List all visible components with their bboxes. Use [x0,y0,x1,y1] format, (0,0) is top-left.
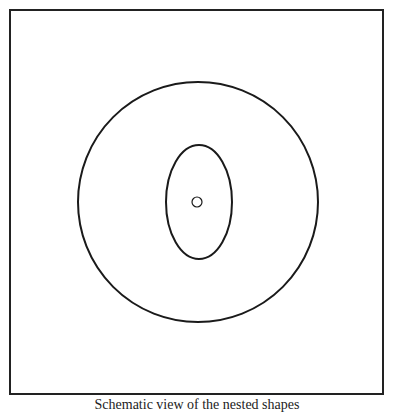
inner-ellipse [166,145,232,259]
frame-border [10,10,383,394]
outer-circle [78,82,318,322]
center-circle [192,197,202,207]
caption: Schematic view of the nested shapes [0,397,394,413]
